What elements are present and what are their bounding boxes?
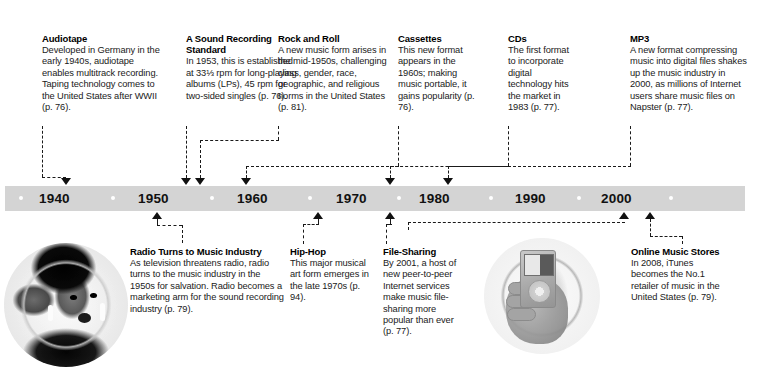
entry-title: CDs: [508, 33, 570, 44]
connector-hiphop-arrow: [313, 212, 323, 219]
entry-title: Radio Turns to Music Industry: [130, 246, 287, 257]
connector-rock-horizontal: [200, 140, 279, 141]
connector-online-stores-vertical-lower: [682, 236, 683, 244]
connector-mp3-horizontal: [448, 166, 631, 167]
connector-rock-arrow: [195, 178, 205, 185]
entry-cassettes: Cassettes This new format appears in the…: [398, 33, 478, 113]
entry-title: Online Music Stores: [631, 246, 723, 257]
decade-label-1950: 1950: [138, 191, 169, 206]
entry-title: Cassettes: [398, 33, 478, 44]
connector-hiphop-vertical-lower: [303, 224, 304, 244]
connector-itunes-photo-vertical: [408, 222, 409, 230]
entry-body: A new music form arises in the mid-1950s…: [278, 45, 390, 113]
connector-online-stores-vertical-upper: [650, 219, 651, 236]
timeline-tick-dot: [111, 196, 115, 200]
timeline-bar: 1940 1950 1960 1970 1980 1990 2000: [5, 186, 745, 211]
decade-label-2000: 2000: [601, 191, 632, 206]
connector-filesharing-vertical-lower: [386, 224, 387, 244]
connector-filesharing-arrow: [385, 212, 395, 219]
entry-audiotape: Audiotape Developed in Germany in the ea…: [42, 33, 160, 113]
entry-title: Rock and Roll: [278, 33, 390, 44]
entry-body: As television threatens radio, radio tur…: [130, 258, 287, 315]
connector-itunes-photo-horizontal: [408, 222, 625, 223]
entry-hip-hop: Hip-Hop This major musical art form emer…: [290, 246, 372, 304]
connector-audiotape-arrow: [61, 178, 71, 185]
timeline-tick-dot: [308, 196, 312, 200]
connector-cassettes-arrow: [241, 178, 251, 185]
timeline-tick-dot: [397, 196, 401, 200]
entry-title: Audiotape: [42, 33, 160, 44]
entry-radio-turns-to-music-industry: Radio Turns to Music Industry As televis…: [130, 246, 287, 315]
connector-rock-vertical-lower: [200, 140, 201, 178]
connector-cds-arrow: [385, 178, 395, 185]
entry-body: By 2001, a host of new peer-to-peer Inte…: [383, 258, 457, 338]
entry-body: Developed in Germany in the early 1940s,…: [42, 45, 160, 113]
connector-radio-horizontal: [157, 225, 182, 226]
entry-body: In 2008, iTunes becomes the No.1 retaile…: [631, 258, 723, 304]
entry-cds: CDs The first format to incorporate digi…: [508, 33, 570, 113]
connector-online-stores-horizontal: [650, 236, 682, 237]
entry-file-sharing: File-Sharing By 2001, a host of new peer…: [383, 246, 457, 338]
decade-label-1960: 1960: [237, 191, 268, 206]
connector-hiphop-horizontal: [303, 224, 319, 225]
timeline-tick-dot: [19, 196, 23, 200]
connector-online-stores-arrow: [645, 212, 655, 219]
mp3-player-screen: [524, 254, 554, 276]
connector-cds-vertical: [508, 126, 509, 166]
connector-mp3-vertical: [630, 126, 631, 166]
connector-mp3-vertical-lower: [448, 166, 449, 178]
connector-cds-vertical-lower: [390, 166, 391, 178]
timeline-tick-dot: [669, 196, 673, 200]
connector-mp3-arrow: [443, 178, 453, 185]
entry-body: A new format compressing music into digi…: [630, 45, 750, 113]
entry-title: File-Sharing: [383, 246, 457, 257]
connector-cassettes-vertical-lower: [246, 166, 247, 178]
entry-title: MP3: [630, 33, 750, 44]
singer-photo: [4, 243, 128, 367]
connector-cassettes-horizontal: [246, 166, 399, 167]
decade-label-1980: 1980: [419, 191, 450, 206]
entry-body: This new format appears in the 1960s; ma…: [398, 45, 478, 113]
timeline-tick-dot: [489, 196, 493, 200]
connector-radio-arrow: [152, 212, 162, 219]
mp3-player-body: [520, 250, 556, 308]
ipod-photo: [484, 238, 600, 354]
entry-body: The first format to incorporate digital …: [508, 45, 570, 113]
decade-label-1990: 1990: [515, 191, 546, 206]
entry-rock-and-roll: Rock and Roll A new music form arises in…: [278, 33, 390, 113]
entry-online-music-stores: Online Music Stores In 2008, iTunes beco…: [631, 246, 723, 304]
mp3-player-click-wheel: [528, 280, 551, 303]
timeline-infographic: Audiotape Developed in Germany in the ea…: [0, 0, 767, 368]
connector-standard-vertical: [186, 126, 187, 178]
connector-audiotape-vertical: [42, 126, 43, 177]
entry-body: This major musical art form emerges in t…: [290, 258, 372, 304]
entry-mp3: MP3 A new format compressing music into …: [630, 33, 750, 113]
connector-rock-vertical-upper: [278, 126, 279, 140]
connector-standard-arrow: [181, 178, 191, 185]
decade-label-1970: 1970: [336, 191, 367, 206]
connector-itunes-photo-arrow: [619, 212, 629, 219]
timeline-tick-dot: [577, 196, 581, 200]
connector-radio-vertical-lower: [182, 225, 183, 243]
entry-title: Hip-Hop: [290, 246, 372, 257]
decade-label-1940: 1940: [39, 191, 70, 206]
connector-cassettes-vertical-upper: [398, 126, 399, 166]
timeline-tick-dot: [210, 196, 214, 200]
